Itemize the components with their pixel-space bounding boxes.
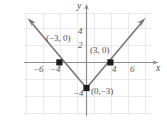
- y-tick-label-4: 4: [78, 27, 83, 36]
- point-annotation-3-0: (3, 0): [90, 46, 110, 55]
- point-annotation-0-neg3: (0,−3): [91, 87, 113, 96]
- point-annotation-neg3-0: (−3, 0): [46, 34, 71, 43]
- y-tick-label-neg4: −4: [73, 89, 84, 98]
- graph-figure: y x 4 2 −4 −6 −4 4 6 (−3, 0) (3, 0) (0,−…: [0, 0, 167, 129]
- x-tick-label-neg6: −6: [33, 65, 44, 74]
- x-tick-label-4: 4: [112, 65, 117, 74]
- coordinate-plane-svg: [0, 0, 167, 129]
- y-axis-label: y: [77, 2, 81, 12]
- x-axis-label: x: [156, 64, 160, 74]
- y-tick-label-2: 2: [78, 41, 83, 50]
- x-tick-label-6: 6: [130, 65, 135, 74]
- data-point-marker-0-neg3: [83, 85, 89, 91]
- x-tick-label-neg4: −4: [50, 65, 61, 74]
